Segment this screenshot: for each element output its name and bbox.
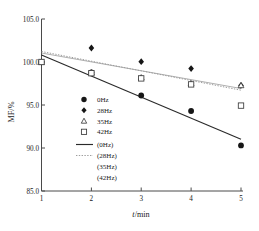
legend-marker-entries: 0Hz 28Hz 35Hz 42Hz: [81, 96, 112, 136]
x-tick-label-5: 5: [239, 195, 243, 203]
series-0hz-markers: [39, 59, 244, 148]
legend-label-28hz: 28Hz: [97, 107, 112, 115]
legend-marker-42hz: [81, 129, 86, 134]
x-tick-label-3: 3: [139, 195, 143, 203]
x-axis-title-rest: /min: [135, 210, 150, 219]
legend-label-fit-42hz: (42Hz): [97, 174, 117, 182]
data-point: [138, 93, 144, 99]
y-tick-label-90: 90.0: [26, 145, 39, 153]
y-tick-marks: [42, 19, 46, 191]
data-point: [238, 103, 243, 108]
x-tick-labels: 1 2 3 4 5: [40, 195, 244, 203]
fit-line-35hz: [42, 53, 242, 89]
data-point: [188, 82, 193, 87]
data-point: [89, 71, 94, 76]
legend-marker-0hz: [81, 97, 86, 102]
data-point: [139, 76, 144, 81]
data-point: [188, 108, 194, 114]
legend-label-35hz: 35Hz: [97, 118, 112, 126]
legend-label-0hz: 0Hz: [97, 96, 109, 104]
data-point: [89, 45, 95, 52]
y-tick-label-85: 85.0: [26, 188, 39, 196]
y-tick-labels: 105.0 100.0 95.0 90.0 85.0: [23, 16, 40, 196]
legend-label-fit-0hz: (0Hz): [97, 141, 114, 149]
y-tick-label-105: 105.0: [23, 16, 40, 24]
y-axis-title: MF/%: [7, 101, 16, 122]
legend-label-fit-35hz: (35Hz): [97, 163, 117, 171]
axis-group: [42, 19, 244, 191]
legend-line-entries: (0Hz) (28Hz) (35Hz) (42Hz): [76, 141, 117, 182]
legend-marker-35hz: [81, 118, 86, 123]
chart-figure: 105.0 100.0 95.0 90.0 85.0 1 2 3 4 5 MF/…: [0, 0, 259, 231]
x-tick-label-4: 4: [189, 195, 193, 203]
legend-label-fit-28hz: (28Hz): [97, 152, 117, 160]
scatter-plot-canvas: 105.0 100.0 95.0 90.0 85.0 1 2 3 4 5 MF/…: [0, 0, 259, 231]
x-tick-marks: [42, 188, 242, 192]
legend-label-42hz: 42Hz: [97, 128, 112, 136]
x-tick-label-1: 1: [40, 195, 44, 203]
svg-text:t/min: t/min: [132, 210, 149, 219]
x-axis-title: t/min: [132, 210, 149, 219]
data-point: [39, 59, 44, 64]
y-tick-label-100: 100.0: [23, 59, 40, 67]
legend-marker-28hz: [81, 107, 86, 113]
data-point: [138, 58, 144, 65]
data-point: [238, 143, 244, 149]
data-point: [188, 65, 194, 72]
y-tick-label-95: 95.0: [26, 102, 39, 110]
x-tick-label-2: 2: [90, 195, 94, 203]
